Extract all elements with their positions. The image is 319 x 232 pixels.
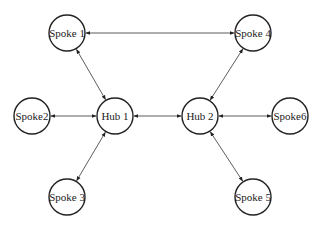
node-spoke6: Spoke6 [272, 98, 308, 134]
node-label: Spoke 1 [49, 27, 85, 39]
node-label: Spoke 4 [235, 27, 271, 39]
edge-spoke4-hub2 [210, 49, 243, 100]
node-spoke4: Spoke 4 [235, 15, 271, 51]
node-hub2: Hub 2 [182, 98, 218, 134]
node-label: Spoke2 [16, 110, 49, 122]
edge-spoke5-hub2 [210, 132, 242, 181]
node-label: Spoke 3 [49, 191, 85, 203]
hub-spoke-diagram: Spoke 1Spoke 4Spoke2Hub 1Hub 2Spoke6Spok… [0, 0, 319, 232]
node-label: Hub 1 [101, 110, 128, 122]
nodes: Spoke 1Spoke 4Spoke2Hub 1Hub 2Spoke6Spok… [14, 15, 308, 215]
node-hub1: Hub 1 [97, 98, 133, 134]
node-spoke1: Spoke 1 [49, 15, 85, 51]
edge-spoke1-hub1 [77, 49, 106, 99]
node-spoke2: Spoke2 [14, 98, 50, 134]
node-label: Hub 2 [186, 110, 213, 122]
node-spoke3: Spoke 3 [49, 179, 85, 215]
node-label: Spoke6 [274, 110, 308, 122]
edges [51, 33, 271, 181]
edge-spoke3-hub1 [77, 132, 106, 180]
node-spoke5: Spoke 5 [235, 179, 271, 215]
node-label: Spoke 5 [235, 191, 271, 203]
